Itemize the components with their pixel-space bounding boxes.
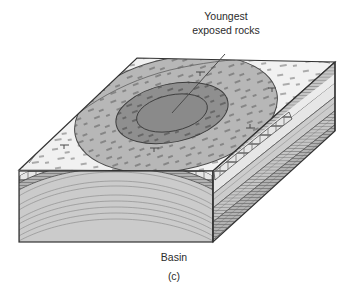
- figure-caption-letter: (c): [168, 270, 180, 282]
- front-bed-massive: [19, 168, 213, 260]
- structure-label: Basin: [161, 251, 187, 263]
- annotation-line-2: exposed rocks: [192, 24, 260, 36]
- basin-block-diagram: Youngest exposed rocks Basin (c): [0, 0, 349, 287]
- annotation-line-1: Youngest: [204, 10, 247, 22]
- figure-container: Youngest exposed rocks Basin (c): [0, 0, 349, 287]
